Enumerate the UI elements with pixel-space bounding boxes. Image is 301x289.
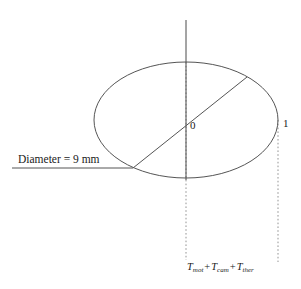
formula-term-2-subscript: cam xyxy=(217,266,229,274)
origin-label: 0 xyxy=(190,120,196,131)
formula-term-3-symbol: T xyxy=(237,261,243,272)
formula-term-1-symbol: T xyxy=(187,261,193,272)
unit-label: 1 xyxy=(283,118,289,129)
formula-operator-2: + xyxy=(229,261,237,272)
formula-term-3-subscript: ther xyxy=(243,266,254,274)
timing-formula-label: Tmot+Tcam+Tther xyxy=(187,262,254,273)
formula-term-1-subscript: mot xyxy=(193,266,204,274)
diameter-label: Diameter = 9 mm xyxy=(18,154,100,166)
ellipse-diagram-svg xyxy=(0,0,301,289)
diagram-canvas: 0 1 Diameter = 9 mm Tmot+Tcam+Tther xyxy=(0,0,301,289)
